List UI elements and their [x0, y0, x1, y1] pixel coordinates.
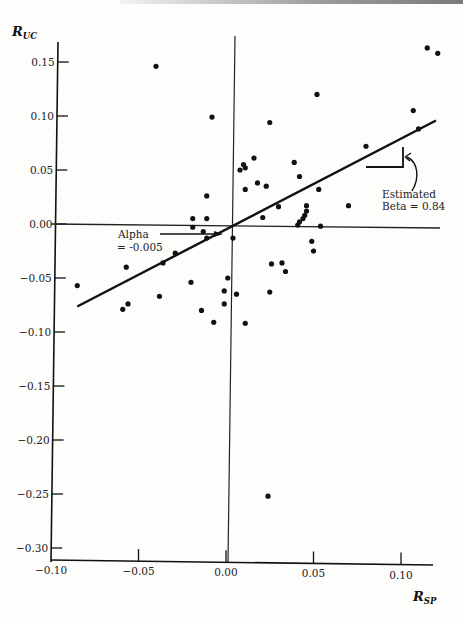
- data-point: [188, 280, 193, 285]
- y-tick-label: 0.00: [29, 218, 52, 230]
- data-point: [222, 301, 227, 306]
- y-axis-title: RUC: [11, 24, 37, 41]
- data-point: [243, 165, 248, 170]
- data-point: [199, 308, 204, 313]
- data-points: [75, 45, 441, 498]
- y-tick-label: −0.10: [19, 326, 51, 338]
- x-axis-title: RSP: [412, 589, 437, 606]
- data-point: [435, 51, 440, 56]
- y-tick-label: −0.20: [17, 434, 49, 446]
- scatter-chart: 0.150.100.050.00−0.05−0.10−0.15−0.20−0.2…: [0, 0, 463, 618]
- data-point: [75, 283, 80, 288]
- x-tick-label: −0.05: [122, 565, 154, 577]
- y-tick-label: −0.15: [18, 380, 50, 392]
- data-point: [209, 114, 214, 119]
- x-tick-label: −0.10: [35, 564, 67, 576]
- data-point: [411, 108, 416, 113]
- beta-label: Estimated: [382, 188, 436, 200]
- data-point: [230, 235, 235, 240]
- axes: 0.150.100.050.00−0.05−0.10−0.15−0.20−0.2…: [16, 42, 433, 581]
- annotations: Alpha = -0.005 Estimated Beta = 0.84: [117, 188, 446, 253]
- data-point: [269, 261, 274, 266]
- data-point: [211, 320, 216, 325]
- data-point: [309, 239, 314, 244]
- data-point: [276, 204, 281, 209]
- data-point: [157, 294, 162, 299]
- regression-line-path: [77, 121, 436, 307]
- data-point: [297, 174, 302, 179]
- regression-line: [77, 121, 436, 307]
- data-point: [314, 92, 319, 97]
- zero-y-line: [51, 224, 440, 228]
- data-point: [234, 292, 239, 297]
- data-point: [295, 222, 300, 227]
- y-tick-label: −0.30: [16, 542, 48, 554]
- data-point: [283, 269, 288, 274]
- data-point: [255, 180, 260, 185]
- data-point: [125, 301, 130, 306]
- data-point: [346, 203, 351, 208]
- x-axis-line: [51, 560, 433, 565]
- reference-lines: [51, 36, 440, 562]
- beta-value: Beta = 0.84: [382, 200, 446, 212]
- data-point: [264, 184, 269, 189]
- axis-labels: RUC RSP: [11, 24, 437, 606]
- data-point: [243, 321, 248, 326]
- data-point: [222, 288, 227, 293]
- data-point: [292, 160, 297, 165]
- data-point: [204, 216, 209, 221]
- data-point: [120, 307, 125, 312]
- data-point: [265, 494, 270, 499]
- data-point: [267, 289, 272, 294]
- data-point: [243, 187, 248, 192]
- data-point: [251, 156, 256, 161]
- data-point: [279, 260, 284, 265]
- data-point: [124, 265, 129, 270]
- x-tick-label: 0.10: [389, 569, 412, 581]
- data-point: [153, 64, 158, 69]
- data-point: [237, 167, 242, 172]
- data-point: [363, 144, 368, 149]
- data-point: [225, 275, 230, 280]
- y-tick-label: 0.10: [31, 110, 54, 122]
- data-point: [190, 216, 195, 221]
- y-tick-label: −0.05: [20, 272, 52, 284]
- beta-triangle: [366, 147, 403, 167]
- beta-arrow: [407, 157, 417, 191]
- data-point: [304, 203, 309, 208]
- x-tick-label: 0.00: [214, 566, 237, 578]
- y-tick-label: 0.15: [31, 56, 54, 68]
- data-point: [267, 120, 272, 125]
- zero-x-line: [228, 36, 235, 562]
- data-point: [260, 215, 265, 220]
- data-point: [204, 193, 209, 198]
- data-point: [311, 248, 316, 253]
- data-point: [316, 187, 321, 192]
- data-point: [190, 225, 195, 230]
- alpha-value: = -0.005: [117, 241, 163, 253]
- data-point: [425, 45, 430, 50]
- y-tick-label: 0.05: [30, 164, 53, 176]
- alpha-label: Alpha: [117, 228, 149, 240]
- x-tick-label: 0.05: [302, 567, 325, 579]
- chart-page: 0.150.100.050.00−0.05−0.10−0.15−0.20−0.2…: [0, 0, 463, 618]
- y-tick-label: −0.25: [17, 488, 49, 500]
- data-point: [318, 224, 323, 229]
